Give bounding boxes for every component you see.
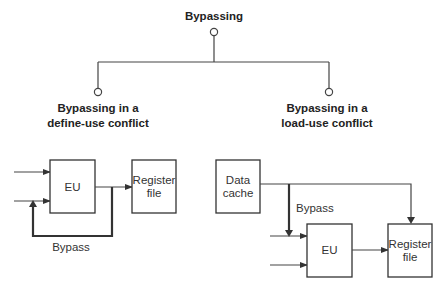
eu-label: EU (322, 244, 338, 256)
bypass-label: Bypass (296, 202, 334, 214)
data-cache-label-line1: Data (226, 174, 251, 186)
bypass-label: Bypass (52, 241, 90, 253)
define-use-title-line1: Bypassing in a (57, 102, 139, 114)
root-label: Bypassing (185, 10, 243, 22)
register-file-label-line2: file (147, 187, 162, 199)
define-use-title-line2: define-use conflict (47, 117, 149, 129)
cache-to-register-arrowhead (407, 217, 415, 224)
eu-label: EU (65, 181, 81, 193)
register-file-label-line1: Register (133, 174, 176, 186)
load-use-diagram: Data cache Bypass EU Register file (216, 160, 432, 277)
load-use-title-line1: Bypassing in a (286, 102, 368, 114)
register-file-label-line2: file (403, 251, 418, 263)
load-use-title-line2: load-use conflict (281, 117, 373, 129)
data-cache-label-line2: cache (223, 187, 254, 199)
left-node (94, 88, 101, 95)
root-node (210, 28, 217, 35)
register-file-label-line1: Register (389, 238, 432, 250)
define-use-diagram: EU Register file Bypass (14, 160, 176, 253)
right-node (325, 88, 332, 95)
cache-to-register-line (260, 184, 411, 222)
bypassing-diagram: Bypassing Bypassing in a define-use conf… (0, 0, 448, 293)
